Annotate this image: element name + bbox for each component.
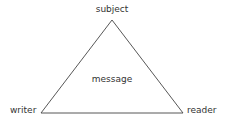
vertex-label-reader: reader [187, 105, 217, 115]
vertex-label-writer: writer [10, 105, 36, 115]
triangle-outline [41, 20, 183, 113]
center-label-message: message [92, 74, 132, 84]
rhetorical-triangle-diagram: subject writer reader message [0, 0, 225, 123]
vertex-label-subject: subject [96, 4, 129, 14]
